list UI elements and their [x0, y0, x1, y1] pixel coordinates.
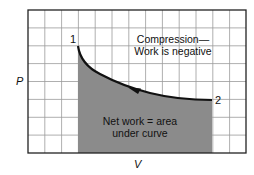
x-axis-label: V — [134, 158, 143, 170]
compression-note-line1: Compression— — [137, 33, 210, 45]
area-note-line2: under curve — [112, 127, 168, 139]
pv-diagram: 1 2 Compression— Work is negative Net wo… — [0, 0, 254, 175]
compression-note-line2: Work is negative — [134, 45, 212, 57]
y-axis-label: P — [16, 75, 24, 87]
point-2-label: 2 — [215, 94, 221, 106]
area-note-line1: Net work = area — [103, 115, 178, 127]
point-1-label: 1 — [70, 33, 76, 45]
